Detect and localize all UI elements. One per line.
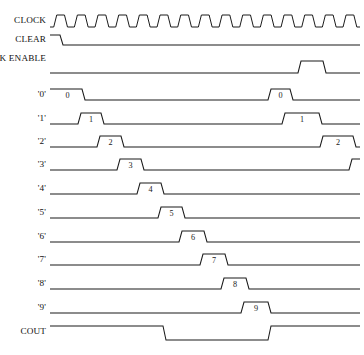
pulse-number-q0-0: 0 [65, 91, 69, 100]
pulse-number-q3-0: 3 [128, 161, 132, 170]
pulse-number-q5-0: 5 [169, 209, 173, 218]
signal-label-q7: '7' [38, 254, 47, 264]
pulse-number-q7-0: 7 [212, 256, 216, 265]
signal-label-cout: COUT [20, 326, 46, 336]
waveform-q0 [50, 89, 360, 100]
waveform-cout [50, 326, 360, 340]
signal-waveforms-group [50, 15, 360, 340]
waveform-clock_enable [50, 61, 360, 73]
waveform-canvas: CLOCKCLEARCLOCK ENABLE'0''1''2''3''4''5'… [0, 0, 364, 355]
waveform-q2 [50, 136, 360, 147]
waveform-q1 [50, 113, 360, 124]
signal-label-q3: '3' [38, 159, 47, 169]
pulse-number-q2-0: 2 [108, 138, 112, 147]
waveform-q4 [50, 183, 360, 194]
signal-label-q5: '5' [38, 207, 47, 217]
signal-label-q1: '1' [38, 113, 47, 123]
waveform-q8 [50, 278, 360, 289]
pulse-number-q4-0: 4 [148, 185, 152, 194]
signal-label-q0: '0' [38, 89, 47, 99]
pulse-number-q1-0: 1 [89, 115, 93, 124]
pulse-number-q1-1: 1 [300, 115, 304, 124]
waveform-q9 [50, 302, 360, 313]
waveform-clock [50, 15, 360, 27]
waveform-q3 [50, 159, 360, 170]
signal-label-q6: '6' [38, 231, 47, 241]
waveform-q6 [50, 231, 360, 242]
waveform-q7 [50, 254, 360, 265]
pulse-number-q8-0: 8 [233, 280, 237, 289]
pulse-number-q6-0: 6 [191, 233, 195, 242]
signal-label-q8: '8' [38, 278, 47, 288]
pulse-number-q9-0: 9 [254, 304, 258, 313]
signal-label-clock: CLOCK [14, 15, 46, 25]
signal-label-clear: CLEAR [15, 34, 47, 44]
waveform-clear [50, 35, 360, 45]
waveform-q5 [50, 207, 360, 218]
signal-label-clock_enable: CLOCK ENABLE [0, 53, 46, 63]
signal-label-q2: '2' [38, 136, 47, 146]
pulse-number-q0-1: 0 [278, 91, 282, 100]
pulse-number-q2-1: 2 [336, 138, 340, 147]
signal-label-q9: '9' [38, 302, 47, 312]
signal-label-q4: '4' [38, 183, 47, 193]
signal-labels-group: CLOCKCLEARCLOCK ENABLE'0''1''2''3''4''5'… [0, 15, 47, 336]
timing-diagram: CLOCKCLEARCLOCK ENABLE'0''1''2''3''4''5'… [0, 0, 364, 355]
